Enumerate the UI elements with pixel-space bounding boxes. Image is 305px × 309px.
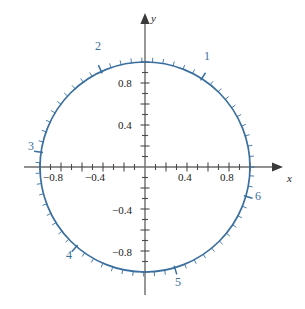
- y-axis-arrow: [140, 13, 149, 24]
- x-tick-label-neg04: −0.4: [85, 172, 105, 183]
- radian-label-2: 2: [95, 40, 101, 52]
- radian-label-4: 4: [66, 249, 72, 261]
- axes-group: [24, 13, 283, 295]
- y-tick-label-neg04: −0.4: [112, 205, 132, 216]
- radian-minor-tick: [58, 231, 62, 234]
- radian-minor-tick: [211, 248, 214, 252]
- radian-label-1: 1: [204, 50, 210, 62]
- unit-circle-figure: −0.8 −0.4 0.4 0.8 0.8 0.4 −0.4 −0.8 x y …: [0, 0, 305, 309]
- radian-label-3: 3: [28, 140, 34, 152]
- radian-minor-tick: [66, 239, 70, 242]
- radian-minor-tick: [219, 241, 223, 245]
- y-axis-label: y: [151, 13, 156, 24]
- x-axis-arrow: [272, 162, 283, 171]
- radian-minor-tick: [57, 101, 61, 104]
- radian-minor-tick: [64, 93, 68, 96]
- radian-minor-tick: [81, 78, 84, 82]
- radian-minor-tick: [218, 88, 221, 92]
- radian-minor-tick: [225, 96, 229, 99]
- x-tick-label-08: 0.8: [220, 172, 234, 183]
- radian-minor-tick: [72, 85, 75, 89]
- radian-minor-tick: [226, 233, 230, 236]
- radian-minor-tick: [249, 156, 254, 157]
- x-tick-label-04: 0.4: [178, 172, 192, 183]
- unit-circle-plot: [0, 0, 305, 309]
- radian-minor-tick: [133, 271, 134, 276]
- radian-label-5: 5: [175, 276, 181, 288]
- radian-label-6: 6: [255, 190, 261, 202]
- x-axis-label: x: [287, 173, 292, 184]
- y-tick-label-04: 0.4: [118, 120, 132, 131]
- radian-minor-tick: [210, 81, 213, 85]
- y-tick-label-08: 0.8: [118, 78, 132, 89]
- y-tick-label-neg08: −0.8: [112, 247, 132, 258]
- x-tick-label-neg08: −0.8: [43, 172, 63, 183]
